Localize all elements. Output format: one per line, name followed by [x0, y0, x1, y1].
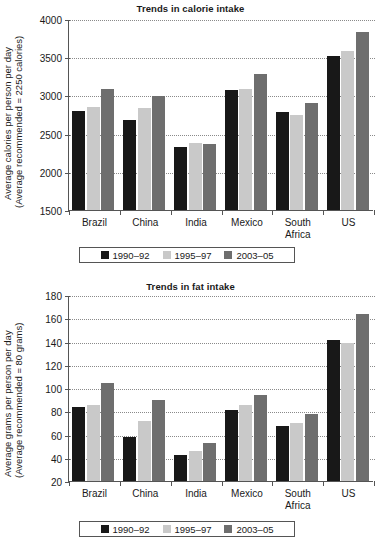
y-axis-tick-label: 20	[51, 477, 62, 488]
legend-swatch-2003-05	[224, 251, 232, 259]
fat-legend: 1990–92 1995–97 2003–05	[79, 521, 295, 537]
bar	[276, 112, 289, 210]
y-axis-tick-label: 100	[45, 384, 62, 395]
bar	[72, 407, 85, 481]
x-axis-category-label: SouthAfrica	[285, 217, 311, 240]
bar	[356, 32, 369, 210]
legend-label-1990-92: 1990–92	[113, 250, 150, 261]
fat-intake-chart: Trends in fat intake Average grams per p…	[0, 272, 381, 544]
x-axis-tick-mark	[69, 210, 70, 215]
y-axis-tick-label: 180	[45, 291, 62, 302]
legend-item-2003-05: 2003–05	[224, 524, 273, 535]
x-axis-tick-mark	[69, 481, 70, 486]
fat-y-axis-title: Average grams per person per day (Averag…	[0, 272, 30, 502]
bar	[189, 143, 202, 210]
bar-group: China	[120, 296, 171, 481]
legend-swatch-2003-05	[224, 525, 232, 533]
bar	[101, 89, 114, 210]
bar	[87, 405, 100, 481]
y-axis-tick-label: 140	[45, 337, 62, 348]
x-axis-category-label: Brazil	[82, 488, 107, 500]
calorie-y-axis-title-line2: (Average recommended = 2250 calories)	[13, 36, 24, 208]
calorie-chart-title: Trends in calorie intake	[0, 3, 381, 14]
bar	[341, 51, 354, 210]
x-axis-tick-mark	[171, 481, 172, 486]
y-axis-tick-label: 1500	[40, 206, 62, 217]
legend-item-1990-92: 1990–92	[101, 250, 150, 261]
bar	[225, 410, 238, 481]
bar	[101, 383, 114, 481]
bar	[290, 423, 303, 481]
x-axis-category-label: Mexico	[231, 488, 263, 500]
y-axis-tick-label: 2500	[40, 129, 62, 140]
bar-group: Brazil	[69, 296, 120, 481]
y-axis-tick-label: 60	[51, 430, 62, 441]
bar-group: SouthAfrica	[272, 296, 323, 481]
bar	[123, 120, 136, 210]
y-axis-tick-label: 40	[51, 453, 62, 464]
x-axis-category-label: Brazil	[82, 217, 107, 229]
bar	[72, 111, 85, 210]
y-axis-tick-label: 80	[51, 407, 62, 418]
y-axis-tick-label: 2000	[40, 167, 62, 178]
x-axis-category-label: China	[132, 488, 158, 500]
x-axis-category-label: US	[342, 488, 356, 500]
calorie-y-axis-title: Average calories per person per day (Ave…	[0, 0, 30, 230]
x-axis-category-label: India	[185, 488, 207, 500]
bar	[138, 108, 151, 210]
legend-item-1995-97: 1995–97	[163, 524, 212, 535]
legend-label-1990-92: 1990–92	[113, 524, 150, 535]
bar	[254, 74, 267, 210]
x-axis-tick-mark	[120, 481, 121, 486]
bar-group: Mexico	[222, 20, 273, 210]
bar	[356, 314, 369, 481]
y-axis-tick-label: 4000	[40, 15, 62, 26]
bar	[152, 400, 165, 481]
x-axis-tick-mark	[171, 210, 172, 215]
legend-label-2003-05: 2003–05	[236, 524, 273, 535]
x-axis-tick-mark	[222, 210, 223, 215]
bar	[189, 451, 202, 481]
fat-y-axis-title-line2: (Average recommended = 80 grams)	[13, 323, 24, 478]
legend-swatch-1995-97	[163, 525, 171, 533]
bar-group: India	[171, 20, 222, 210]
legend-label-1995-97: 1995–97	[175, 250, 212, 261]
bar	[174, 455, 187, 481]
bar	[174, 147, 187, 210]
calorie-legend: 1990–92 1995–97 2003–05	[79, 247, 295, 263]
x-axis-category-label: India	[185, 217, 207, 229]
legend-item-2003-05: 2003–05	[224, 250, 273, 261]
bar	[254, 395, 267, 481]
legend-label-2003-05: 2003–05	[236, 250, 273, 261]
legend-item-1990-92: 1990–92	[101, 524, 150, 535]
bar	[225, 90, 238, 210]
bar	[138, 421, 151, 481]
x-axis-tick-mark	[272, 481, 273, 486]
x-axis-tick-mark	[323, 210, 324, 215]
bar-group: India	[171, 296, 222, 481]
y-axis-tick-label: 120	[45, 360, 62, 371]
calorie-intake-chart: Trends in calorie intake Average calorie…	[0, 0, 381, 272]
bar-group: Brazil	[69, 20, 120, 210]
bar	[341, 343, 354, 481]
y-axis-tick-label: 160	[45, 314, 62, 325]
legend-label-1995-97: 1995–97	[175, 524, 212, 535]
bar-group: US	[323, 296, 374, 481]
bar	[327, 340, 340, 481]
fat-plot-area: 18016014012010080604020BrazilChinaIndiaM…	[68, 296, 373, 482]
bar	[87, 107, 100, 210]
y-axis-tick-label: 3500	[40, 53, 62, 64]
x-axis-category-label: US	[342, 217, 356, 229]
bar	[305, 103, 318, 210]
bar	[239, 89, 252, 210]
bar	[305, 414, 318, 481]
bar	[203, 144, 216, 210]
bar-group: China	[120, 20, 171, 210]
y-axis-tick-label: 3000	[40, 91, 62, 102]
bar-group: US	[323, 20, 374, 210]
x-axis-tick-mark	[120, 210, 121, 215]
bar	[327, 56, 340, 210]
bar-group: SouthAfrica	[272, 20, 323, 210]
bar	[239, 405, 252, 481]
x-axis-tick-mark	[374, 210, 375, 215]
